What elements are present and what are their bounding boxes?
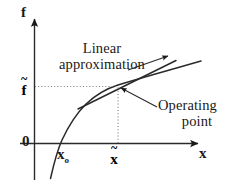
x-axis-label: x (199, 146, 207, 161)
operating-point-annotation: Operating point (158, 97, 236, 129)
origin-label: 0 (22, 134, 30, 149)
x-zero-subscript: o (65, 155, 70, 165)
operating-point-line2: point (158, 113, 236, 129)
f-tilde-label: ~ f (17, 77, 31, 97)
x-zero-base: x (57, 146, 65, 162)
linearization-figure: f x 0 ~ f ~ x xo Linear approximation Op… (0, 0, 237, 194)
x-tilde-base: x (107, 152, 121, 166)
linear-approximation-line1: Linear (46, 40, 158, 56)
linear-approximation-line2: approximation (46, 56, 158, 72)
y-axis-label: f (21, 5, 26, 20)
operating-point-leader-arrow (121, 88, 157, 107)
x-tilde-label: ~ x (107, 146, 121, 166)
x-zero-label: xo (57, 147, 69, 165)
f-tilde-base: f (17, 83, 31, 97)
linear-approximation-annotation: Linear approximation (46, 40, 158, 72)
operating-point-line1: Operating (158, 97, 236, 113)
